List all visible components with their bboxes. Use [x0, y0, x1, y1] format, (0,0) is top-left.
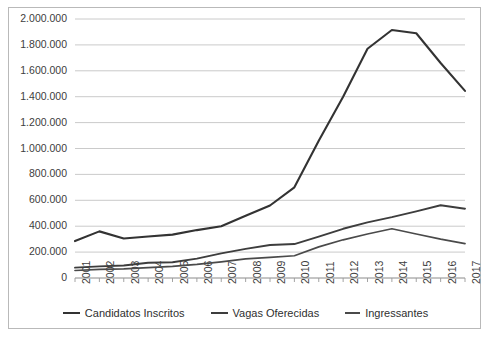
- legend-label: Candidatos Inscritos: [85, 307, 185, 319]
- series-line: [75, 205, 465, 267]
- series-line: [75, 30, 465, 241]
- chart-frame: 2.000.0001.800.0001.600.0001.400.0001.20…: [8, 7, 481, 329]
- cropped-title-above-frame: [0, 0, 491, 7]
- chart-legend: Candidatos InscritosVagas OferecidasIngr…: [9, 307, 482, 319]
- plot-lines: [9, 8, 482, 330]
- legend-item[interactable]: Candidatos Inscritos: [63, 307, 185, 319]
- axis-lines: [75, 278, 465, 282]
- series-lines: [75, 30, 465, 270]
- legend-item[interactable]: Vagas Oferecidas: [211, 307, 320, 319]
- line-chart: 2.000.0001.800.0001.600.0001.400.0001.20…: [9, 8, 482, 330]
- legend-label: Ingressantes: [365, 307, 428, 319]
- cropped-caption-below-frame: [0, 330, 491, 339]
- legend-label: Vagas Oferecidas: [233, 307, 320, 319]
- gridlines: [75, 19, 465, 278]
- legend-line-swatch-icon: [345, 312, 360, 314]
- legend-item[interactable]: Ingressantes: [345, 307, 428, 319]
- legend-line-swatch-icon: [63, 312, 80, 314]
- legend-line-swatch-icon: [211, 312, 228, 314]
